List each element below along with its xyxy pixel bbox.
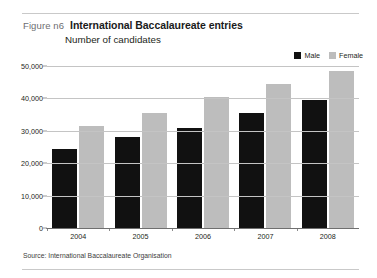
bar-male-2005 [115,137,140,228]
figure-title-line: Figure n6 International Baccalaureate en… [23,19,343,31]
figure-number-label: Figure n6 [23,20,64,31]
bar-group-2008 [297,66,359,228]
bar-group-2004 [47,66,109,228]
y-tick-mark-20000 [43,163,47,164]
bar-group-2005 [109,66,171,228]
y-tick-mark-40000 [43,98,47,99]
x-axis-label-2007: 2007 [234,232,296,241]
gridline-40000 [47,98,359,99]
y-tick-label-0: 0 [39,224,43,233]
x-axis-label-2008: 2008 [297,232,359,241]
chart-bars [47,66,359,228]
legend-label-male: Male [304,51,320,60]
bar-female-2004 [79,126,104,228]
chart-legend: MaleFemale [294,51,363,60]
legend-item-male: Male [294,51,320,60]
y-tick-label-20000: 20,000 [21,159,43,168]
y-tick-mark-30000 [43,130,47,131]
y-tick-label-40000: 40,000 [21,94,43,103]
x-axis-label-2004: 2004 [47,232,109,241]
x-axis-label-2005: 2005 [109,232,171,241]
bar-group-2007 [234,66,296,228]
y-tick-label-50000: 50,000 [21,62,43,71]
gridline-50000 [47,66,359,67]
y-tick-mark-10000 [43,195,47,196]
x-axis-labels: 20042005200620072008 [47,232,359,241]
figure-bottom-rule [22,269,359,270]
gridline-20000 [47,163,359,164]
figure-subtitle: Number of candidates [65,34,343,45]
figure-title: International Baccalaureate entries [70,19,243,31]
legend-swatch-male [294,52,301,59]
figure-header: Figure n6 International Baccalaureate en… [23,19,343,45]
y-tick-label-30000: 30,000 [21,126,43,135]
bar-group-2006 [172,66,234,228]
y-tick-mark-50000 [43,66,47,67]
bar-female-2008 [329,71,354,228]
bar-female-2007 [266,84,291,228]
x-axis-label-2006: 2006 [172,232,234,241]
y-tick-mark-0 [43,228,47,229]
y-tick-label-10000: 10,000 [21,191,43,200]
chart-plot-area: 010,00020,00030,00040,00050,000 [47,66,359,228]
figure-source: Source: International Baccalaureate Orga… [23,252,172,259]
gridline-30000 [47,131,359,132]
bar-male-2006 [177,128,202,228]
legend-item-female: Female [329,51,363,60]
legend-swatch-female [329,52,336,59]
figure-container: Figure n6 International Baccalaureate en… [0,0,377,278]
x-axis-line [46,228,359,229]
figure-top-rule [22,13,359,14]
bar-male-2004 [52,149,77,228]
gridline-10000 [47,196,359,197]
legend-label-female: Female [339,51,363,60]
